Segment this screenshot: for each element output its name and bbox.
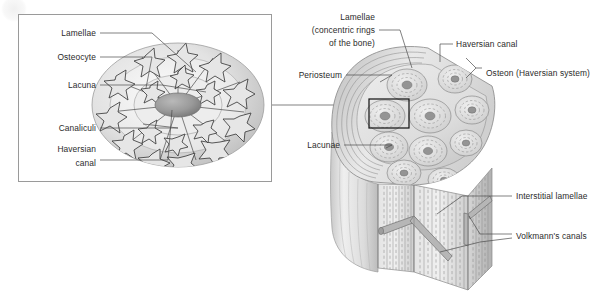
label-lacunae: Lacunae [307, 140, 340, 150]
osteon [409, 99, 451, 133]
osteon [370, 132, 408, 162]
volkmanns-canal-opening [378, 227, 383, 234]
volkmanns-canal-vertical [464, 213, 468, 246]
osteon [387, 160, 421, 186]
osteon [387, 69, 427, 101]
label-canaliculi: Canaliculi [59, 123, 96, 133]
osteon [438, 65, 472, 93]
label-haversian-canal-line2: canal [75, 158, 96, 168]
osteon [455, 96, 489, 124]
osteon [409, 136, 447, 166]
label-lacuna: Lacuna [68, 80, 96, 90]
label-osteocyte: Osteocyte [57, 52, 96, 62]
label-haversian-canal: Haversian canal [456, 39, 518, 49]
label-osteon: Osteon (Haversian system) [486, 68, 590, 78]
osteon [450, 130, 482, 156]
osteon [365, 100, 405, 132]
label-lamellae: Lamellae [61, 28, 96, 38]
osteon-cross-section-inset: Lamellae Osteocyte Lacuna Canaliculi Hav… [19, 15, 272, 182]
figure-canvas: Lamellae Osteocyte Lacuna Canaliculi Hav… [0, 0, 610, 307]
inset-haversian-canal [155, 93, 201, 117]
label-lamellae-concentric-line1: Lamellae [340, 12, 375, 22]
osteon [428, 168, 460, 192]
label-haversian-canal-line1: Haversian [57, 144, 96, 154]
bone-anatomy-diagram: Lamellae Osteocyte Lacuna Canaliculi Hav… [0, 0, 610, 307]
label-interstitial-lamellae: Interstitial lamellae [516, 191, 588, 201]
compact-bone-3d-cutaway: Lamellae (concentric rings of the bone) … [299, 12, 590, 292]
label-lamellae-concentric-line2: (concentric rings [312, 25, 375, 35]
label-periosteum: Periosteum [299, 70, 342, 80]
label-volkmanns-canals: Volkmann's canals [516, 231, 587, 241]
label-lamellae-concentric-line3: of the bone) [329, 38, 375, 48]
cut-panel-right [468, 168, 492, 290]
